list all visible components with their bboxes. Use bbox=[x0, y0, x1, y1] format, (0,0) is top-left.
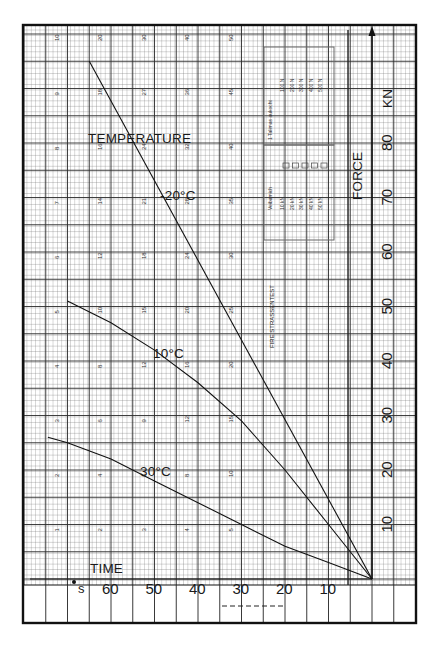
curve-label-10: 10°C bbox=[153, 346, 184, 361]
grid-number: 16 bbox=[184, 361, 190, 368]
force-label: FORCE bbox=[350, 152, 365, 200]
force-tick: 10 bbox=[378, 516, 395, 533]
legend-value-b: 50 kN bbox=[317, 197, 323, 210]
grid-number: 12 bbox=[97, 252, 103, 259]
grid-number: 45 bbox=[228, 88, 234, 95]
grid-number: 40 bbox=[228, 143, 234, 150]
legend-value-a: 300 N bbox=[298, 78, 304, 92]
force-tick: 40 bbox=[378, 352, 395, 369]
grid-number: 15 bbox=[228, 415, 234, 422]
force-tick: 30 bbox=[378, 407, 395, 424]
time-unit-dot bbox=[72, 580, 76, 584]
legend-value-b: 20 kN bbox=[289, 197, 295, 210]
grid-number: 20 bbox=[184, 306, 190, 313]
time-tick: 20 bbox=[276, 580, 293, 597]
legend-value-b: 40 kN bbox=[308, 197, 314, 210]
force-time-chart: 1 Talimas aukocht100 N200 N300 N400 N500… bbox=[0, 0, 438, 647]
legend-value-a: 100 N bbox=[279, 78, 285, 92]
grid-number: 18 bbox=[97, 88, 103, 95]
grid-number: 30 bbox=[141, 34, 147, 41]
force-tick: 60 bbox=[378, 243, 395, 260]
grid-number: 40 bbox=[184, 34, 190, 41]
time-tick: 30 bbox=[233, 580, 250, 597]
grid-number: 14 bbox=[97, 197, 103, 204]
force-unit-label: KN bbox=[380, 89, 395, 108]
grid-number: 35 bbox=[228, 197, 234, 204]
test-label: FIRE STRASSENTEST bbox=[269, 285, 275, 348]
grid-number: 50 bbox=[228, 34, 234, 41]
grid-number: 10 bbox=[54, 34, 60, 41]
chart-canvas: 1 Talimas aukocht100 N200 N300 N400 N500… bbox=[0, 0, 438, 647]
grid-number: 10 bbox=[97, 306, 103, 313]
legend-value-b: 10 kN bbox=[279, 197, 285, 210]
legend-header-a: 1 Talimas aukocht bbox=[267, 99, 273, 140]
time-unit-label: s bbox=[78, 581, 85, 596]
force-tick: 50 bbox=[378, 298, 395, 315]
grid-number: 21 bbox=[141, 197, 147, 204]
grid-number: 15 bbox=[141, 306, 147, 313]
grid-number: 36 bbox=[184, 88, 190, 95]
grid-number: 25 bbox=[228, 306, 234, 313]
legend-value-b: 30 kN bbox=[298, 197, 304, 210]
legend-value-a: 200 N bbox=[289, 78, 295, 92]
grid-number: 24 bbox=[184, 252, 190, 259]
legend-value-a: 400 N bbox=[308, 78, 314, 92]
time-tick: 40 bbox=[189, 580, 206, 597]
temperature-label: TEMPERATURE bbox=[88, 131, 191, 146]
legend-header-b: Veibamich bbox=[267, 187, 273, 210]
force-tick: 20 bbox=[378, 461, 395, 478]
force-tick: 70 bbox=[378, 189, 395, 206]
grid-number: 12 bbox=[184, 415, 190, 422]
force-tick: 80 bbox=[378, 134, 395, 151]
grid-number: 12 bbox=[141, 361, 147, 368]
time-label: TIME bbox=[90, 561, 123, 576]
time-tick: 50 bbox=[146, 580, 163, 597]
grid-number: 20 bbox=[228, 361, 234, 368]
grid-number: 10 bbox=[228, 470, 234, 477]
legend-value-a: 500 N bbox=[317, 78, 323, 92]
grid-number: 18 bbox=[141, 252, 147, 259]
curve-label-minus20: -20°C bbox=[160, 188, 196, 203]
grid-number: 20 bbox=[97, 34, 103, 41]
curve-label-30: 30°C bbox=[140, 464, 171, 479]
grid-number: 30 bbox=[228, 252, 234, 259]
grid-number: 27 bbox=[141, 88, 147, 95]
time-tick: 10 bbox=[320, 580, 337, 597]
time-tick: 60 bbox=[102, 580, 119, 597]
